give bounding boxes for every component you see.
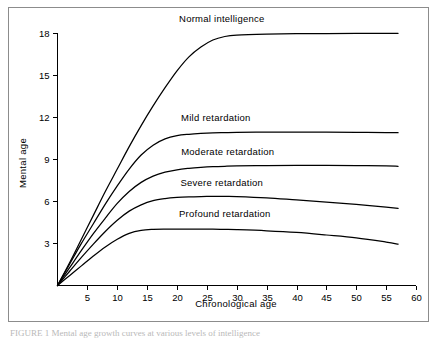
x-tick-label-60: 60	[411, 292, 422, 303]
chart-plot: 369121518 51015202530354045505560 Normal…	[0, 0, 438, 338]
curve-label-severe-retardation: Severe retardation	[180, 177, 263, 188]
curve-label-moderate-retardation: Moderate retardation	[181, 146, 274, 157]
x-tick-label-10: 10	[112, 292, 123, 303]
x-tick-label-15: 15	[142, 292, 153, 303]
y-axis-title: Mental age	[17, 138, 28, 188]
curve-profound-retardation	[58, 229, 399, 285]
y-axis-tick-labels: 369121518	[39, 28, 50, 249]
x-tick-label-50: 50	[351, 292, 362, 303]
figure-caption: FIGURE 1 Mental age growth curves at var…	[10, 327, 430, 338]
figure-root: 369121518 51015202530354045505560 Normal…	[0, 0, 438, 338]
y-tick-label-9: 9	[44, 154, 49, 165]
x-tick-label-20: 20	[172, 292, 183, 303]
y-tick-label-6: 6	[44, 196, 49, 207]
curve-label-profound-retardation: Profound retardation	[179, 208, 271, 219]
x-tick-label-40: 40	[292, 292, 303, 303]
axes-group	[57, 33, 416, 286]
curve-label-mild-retardation: Mild retardation	[181, 112, 250, 123]
x-tick-label-5: 5	[85, 292, 90, 303]
y-tick-label-12: 12	[39, 112, 50, 123]
x-tick-label-55: 55	[381, 292, 392, 303]
curve-label-normal-intelligence: Normal intelligence	[179, 13, 265, 24]
x-axis-title: Chronological age	[195, 298, 277, 309]
curve-normal-intelligence	[58, 33, 399, 285]
curve-label-group: Normal intelligenceMild retardationModer…	[179, 13, 274, 220]
y-tick-label-3: 3	[44, 238, 49, 249]
y-tick-label-18: 18	[39, 28, 50, 39]
x-tick-label-45: 45	[321, 292, 332, 303]
curve-group	[58, 33, 399, 285]
y-tick-label-15: 15	[39, 70, 50, 81]
